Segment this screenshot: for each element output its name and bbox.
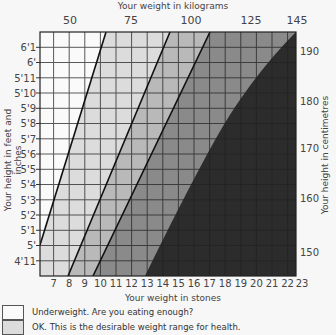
legend-item-underweight: Underweight. Are you eating enough? [2, 304, 193, 320]
ftin-tick: 5'1 [21, 225, 36, 236]
stone-tick: 20 [250, 278, 263, 289]
legend-label: Underweight. Are you eating enough? [32, 307, 193, 317]
stone-tick: 19 [234, 278, 247, 289]
cm-tick: 170 [300, 143, 319, 154]
stone-tick: 15 [172, 278, 185, 289]
stone-tick: 12 [125, 278, 138, 289]
ftin-tick: 5' [27, 240, 36, 251]
stone-tick: 11 [110, 278, 123, 289]
stone-tick: 8 [66, 278, 72, 289]
ftin-tick: 6' [27, 57, 36, 68]
stone-tick: 23 [296, 278, 309, 289]
bottom-axis-title: Your weight in stones [0, 293, 336, 303]
stone-tick: 17 [203, 278, 216, 289]
legend-item-ok: OK. This is the desirable weight range f… [2, 319, 240, 335]
ftin-tick: 4'11 [14, 256, 36, 267]
cm-tick: 190 [300, 46, 319, 57]
stone-tick: 13 [141, 278, 154, 289]
legend-label: OK. This is the desirable weight range f… [32, 322, 240, 332]
cm-tick: 160 [300, 193, 319, 204]
stone-tick: 22 [281, 278, 294, 289]
legend-swatch [2, 320, 24, 335]
stone-tick: 7 [50, 278, 56, 289]
stone-tick: 14 [156, 278, 169, 289]
cm-tick: 180 [300, 96, 319, 107]
cm-tick: 150 [300, 247, 319, 258]
right-axis-title: Your height in centimetres [320, 90, 330, 220]
stone-tick: 10 [94, 278, 107, 289]
legend-swatch [2, 305, 24, 320]
ftin-tick: 6'1 [21, 42, 36, 53]
ftin-tick: 5'11 [14, 73, 36, 84]
stone-tick: 16 [188, 278, 201, 289]
left-axis-title: Your height in feet and inches [3, 95, 23, 225]
stone-tick: 21 [266, 278, 279, 289]
stone-tick: 18 [219, 278, 232, 289]
stone-tick: 9 [82, 278, 88, 289]
